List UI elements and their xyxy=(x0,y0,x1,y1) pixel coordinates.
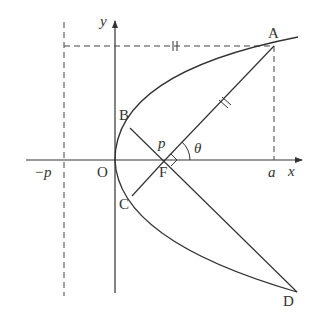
origin-label: O xyxy=(97,165,108,180)
theta-arc xyxy=(182,142,190,160)
y-axis-label: y xyxy=(100,14,107,29)
parabola-curve xyxy=(115,37,298,160)
theta-label: θ xyxy=(194,141,201,156)
segment-bd xyxy=(130,128,297,292)
x-axis-label: x xyxy=(288,164,295,179)
a-label: a xyxy=(268,165,276,180)
p-label: p xyxy=(158,136,166,151)
directrix-label: −p xyxy=(34,165,52,180)
segment-af xyxy=(165,46,274,160)
point-c-label: C xyxy=(119,197,129,212)
point-b-label: B xyxy=(119,108,129,123)
point-d-label: D xyxy=(283,294,294,309)
point-a-label: A xyxy=(268,26,279,41)
diagram-canvas xyxy=(0,0,320,321)
parabola-diagram: y x O A B C D F −p a p θ xyxy=(0,0,320,321)
focus-label: F xyxy=(159,165,167,180)
